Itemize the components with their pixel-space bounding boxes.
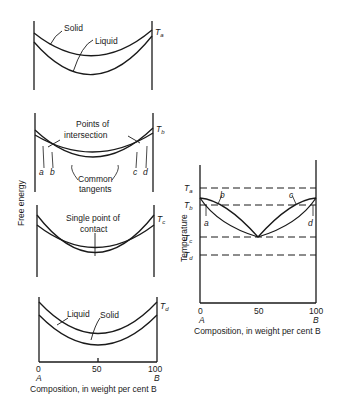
label-solid-a: Solid: [64, 23, 83, 33]
phase-diagram-figure: Solid Liquid Ta Points of intersection T…: [0, 0, 345, 409]
label-a-left: a: [39, 167, 44, 177]
panel-d-liquid-curve: [39, 302, 157, 334]
panel-b-arrow-b: [52, 152, 53, 168]
right-label-b: b: [220, 190, 225, 200]
temp-ta-left: Ta: [155, 27, 164, 38]
right-label-d: d: [308, 218, 313, 228]
left-end-b: B: [154, 373, 160, 383]
panel-d-solid-leader: [91, 318, 100, 340]
panel-b-arrow-d: [146, 146, 147, 168]
label-single-point: Single point of: [66, 213, 121, 223]
label-liquid-d: Liquid: [67, 309, 90, 319]
left-y-axis-label: Free energy: [16, 179, 26, 226]
panel-b-intersection-leader-right: [128, 136, 140, 143]
temp-tb-right: Tb: [184, 200, 193, 211]
temp-td-left: Td: [160, 301, 169, 312]
temp-ta-right: Ta: [184, 183, 193, 194]
right-label-a: a: [204, 218, 209, 228]
label-c-left: c: [133, 167, 138, 177]
panel-b-arrow-a: [43, 146, 44, 168]
label-d-left: d: [143, 167, 148, 177]
panel-d-solid-curve: [39, 315, 157, 345]
left-end-a: A: [35, 373, 42, 383]
temp-tc-left: Tc: [157, 214, 165, 225]
panel-b-arrow-c: [136, 152, 137, 168]
label-b-left: b: [50, 167, 55, 177]
right-y-axis-label: Temperature: [179, 214, 189, 262]
label-intersection: intersection: [64, 130, 108, 140]
panel-a-solid-leader: [50, 31, 62, 45]
label-solid-d: Solid: [100, 310, 119, 320]
panel-b-tangent-leader-right: [112, 165, 118, 180]
right-x-axis-label: Composition, in weight per cent B: [194, 326, 321, 336]
right-tick-50: 50: [254, 306, 264, 316]
label-liquid-a: Liquid: [95, 36, 118, 46]
panel-a-solid-curve: [34, 30, 152, 56]
left-tick-50: 50: [92, 364, 102, 374]
label-contact: contact: [80, 224, 108, 234]
label-points-of: Points of: [76, 119, 110, 129]
label-tangents: tangents: [79, 184, 112, 194]
temp-tb-left: Tb: [156, 124, 165, 135]
left-x-axis-label: Composition, in weight per cent B: [30, 384, 157, 394]
right-end-a: A: [198, 315, 205, 325]
label-common: Common: [78, 174, 113, 184]
right-end-b: B: [313, 315, 319, 325]
